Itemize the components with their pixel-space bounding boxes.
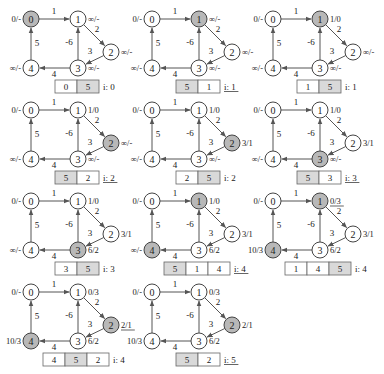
iteration-label: i: 3 <box>103 264 115 274</box>
node-id: 4 <box>150 154 155 165</box>
queue-box: 35i: 3 <box>55 262 115 275</box>
step-panel: 123-64500/-10/322/136/2410/3452i: 4 <box>6 279 135 366</box>
dist-label-node-1: 1/0 <box>88 105 99 115</box>
edge-weight: -6 <box>186 128 194 138</box>
edge-weight: 5 <box>156 129 161 139</box>
dist-label-node-0: 0/- <box>133 105 143 115</box>
diagram-canvas: 123-64500/-1∞/-2∞/-3∞/-4∞/-05i: 0123-645… <box>0 0 384 374</box>
edge-weight: 1 <box>173 6 178 16</box>
node-id: 0 <box>150 14 155 25</box>
node-id: 4 <box>29 63 34 74</box>
dist-label-node-0: 0/- <box>12 105 22 115</box>
node-id: 0 <box>29 14 34 25</box>
step-panel: 123-64500/-1∞/-2∞/-3∞/-4∞/-05i: 0 <box>10 6 133 93</box>
node-id: 0 <box>271 14 276 25</box>
queue-value: 5 <box>64 173 69 183</box>
edge-weight: 4 <box>173 251 178 261</box>
edge-weight: -6 <box>186 37 194 47</box>
node-id: 4 <box>271 245 276 256</box>
step-panel: 123-64500/-11/023/136/24∞/-35i: 3 <box>10 188 132 275</box>
dist-label-node-1: 1/0 <box>209 105 220 115</box>
edge-weight: -6 <box>65 219 73 229</box>
edge-weight: -6 <box>307 219 315 229</box>
dist-label-node-4: ∞/- <box>10 245 21 255</box>
dist-label-node-2: ∞/- <box>363 47 374 57</box>
node-id: 1 <box>76 196 81 207</box>
edge-weight: 2 <box>95 297 100 307</box>
queue-value: 5 <box>86 264 91 274</box>
dist-label-node-1: ∞/- <box>88 14 99 24</box>
edge-weight: 3 <box>88 137 93 147</box>
edge-weight: 3 <box>209 46 214 56</box>
node-id: 4 <box>29 154 34 165</box>
dist-label-node-1: 1/0 <box>330 105 341 115</box>
edge-weight: 3 <box>88 319 93 329</box>
edge-weight: 3 <box>88 46 93 56</box>
node-id: 0 <box>29 196 34 207</box>
dist-label-node-3: ∞/- <box>88 154 99 164</box>
queue-value: 1 <box>294 264 299 274</box>
node-id: 3 <box>76 63 81 74</box>
node-id: 2 <box>351 47 356 58</box>
dist-label-node-0: 0/- <box>133 287 143 297</box>
node-id: 3 <box>76 245 81 256</box>
edge-weight: 5 <box>156 38 161 48</box>
node-id: 0 <box>150 105 155 116</box>
node-id: 4 <box>150 63 155 74</box>
edge-weight: 5 <box>35 220 40 230</box>
node-id: 3 <box>197 245 202 256</box>
dist-label-node-3: ∞/- <box>330 154 341 164</box>
node-id: 1 <box>76 105 81 116</box>
node-id: 0 <box>150 287 155 298</box>
dist-label-node-3: ∞/- <box>209 63 220 73</box>
edge-weight: 2 <box>95 24 100 34</box>
edge-weight: 4 <box>173 69 178 79</box>
queue-value: 5 <box>207 173 212 183</box>
dist-label-node-4: ∞/- <box>131 245 142 255</box>
queue-value: 5 <box>328 82 333 92</box>
edge-weight: 5 <box>277 220 282 230</box>
node-id: 1 <box>197 196 202 207</box>
node-id: 0 <box>271 196 276 207</box>
edge-weight: -6 <box>307 128 315 138</box>
queue-value: 5 <box>173 264 178 274</box>
dist-label-node-4: ∞/- <box>10 63 21 73</box>
iteration-label: i: 0 <box>103 82 115 92</box>
edge-weight: 5 <box>156 220 161 230</box>
node-id: 2 <box>230 47 235 58</box>
edge-weight: 1 <box>52 279 57 289</box>
panels-container: 123-64500/-1∞/-2∞/-3∞/-4∞/-05i: 0123-645… <box>6 6 375 366</box>
node-id: 3 <box>197 154 202 165</box>
queue-value: 0 <box>64 82 69 92</box>
edge-weight: 5 <box>35 129 40 139</box>
queue-value: 2 <box>185 173 190 183</box>
step-panel: 123-64500/-10/323/136/2410/3145i: 4 <box>248 188 374 275</box>
dist-label-node-4: 10/3 <box>6 336 21 346</box>
node-id: 0 <box>271 105 276 116</box>
edge-weight: -6 <box>65 310 73 320</box>
edge-weight: 1 <box>52 6 57 16</box>
iteration-label: i: 4 <box>234 264 246 274</box>
dist-label-node-2: 3/1 <box>363 229 374 239</box>
queue-box: 05i: 0 <box>55 80 115 93</box>
edge-weight: -6 <box>186 219 194 229</box>
dist-label-node-4: ∞/- <box>10 154 21 164</box>
edge-weight: 1 <box>294 6 299 16</box>
node-id: 1 <box>197 105 202 116</box>
edge-weight: 2 <box>95 115 100 125</box>
dist-label-node-0: 0/- <box>12 196 22 206</box>
iteration-label: i: 1 <box>345 82 357 92</box>
edge-weight: 5 <box>277 129 282 139</box>
node-id: 4 <box>150 245 155 256</box>
dist-label-node-2: ∞/- <box>121 138 132 148</box>
queue-value: 5 <box>185 355 190 365</box>
queue-value: 1 <box>195 264 200 274</box>
node-id: 4 <box>29 336 34 347</box>
node-id: 3 <box>318 245 323 256</box>
edge-weight: 2 <box>95 206 100 216</box>
edge-weight: -6 <box>307 37 315 47</box>
edge-weight: 1 <box>294 97 299 107</box>
queue-box: 15i: 1 <box>297 80 357 93</box>
node-id: 2 <box>109 320 114 331</box>
edge-weight: -6 <box>65 37 73 47</box>
